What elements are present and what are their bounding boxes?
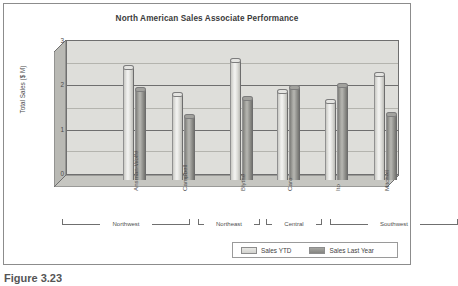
- bars-layer: [54, 40, 399, 187]
- group-bracket-southwest: Southwest: [330, 219, 458, 231]
- bar-cap: [277, 89, 288, 94]
- plot-area: 0 1 2 3 Ansman-WolfeCampbellBlytheCaroIt…: [54, 40, 399, 187]
- figure-frame: North American Sales Associate Performan…: [3, 3, 411, 265]
- group-bracket-northeast: Northeast: [198, 219, 260, 231]
- x-axis-label-ito: Ito: [335, 184, 341, 191]
- bar-cap: [289, 85, 300, 90]
- legend-swatch-sales-last-year: [309, 247, 325, 254]
- x-axis-label-caro: Caro: [287, 178, 293, 191]
- x-axis-label-mitchell: Mitchell: [384, 170, 390, 191]
- bar-cap: [184, 114, 195, 119]
- bar-cap: [325, 99, 336, 104]
- group-brackets: Northwest Northeast Central Southwest: [54, 219, 399, 233]
- bar-mitchell-sales-ytd: [374, 72, 385, 181]
- chart-legend: Sales YTD Sales Last Year: [232, 242, 398, 258]
- legend-label-sales-ytd: Sales YTD: [261, 247, 291, 254]
- legend-item-sales-ytd: Sales YTD: [241, 247, 291, 254]
- legend-swatch-sales-ytd: [241, 247, 257, 254]
- bar-body: [325, 102, 336, 181]
- bar-body: [374, 75, 385, 181]
- group-label-central: Central: [266, 221, 322, 227]
- group-label-northwest: Northwest: [62, 221, 190, 227]
- bar-body: [242, 99, 253, 180]
- bar-cap: [172, 92, 183, 97]
- bar-cap: [230, 58, 241, 63]
- group-label-southwest: Southwest: [330, 221, 458, 227]
- bar-blythe-sales-ytd: [230, 58, 241, 180]
- x-axis-label-campbell: Campbell: [182, 165, 188, 191]
- x-axis-label-blythe: Blythe: [240, 174, 246, 191]
- bar-body: [230, 61, 241, 180]
- bar-body: [289, 88, 300, 180]
- y-axis-title: Total Sales ($ M): [19, 50, 26, 130]
- x-axis-label-ansman-wolfe: Ansman-Wolfe: [133, 151, 139, 191]
- bar-ito-sales-ytd: [325, 99, 336, 181]
- legend-item-sales-last-year: Sales Last Year: [309, 247, 373, 254]
- bar-blythe-sales-last-year: [242, 96, 253, 180]
- bar-body: [337, 86, 348, 181]
- bar-cap: [374, 72, 385, 77]
- figure-caption: Figure 3.23: [4, 272, 62, 286]
- bar-ito-sales-last-year: [337, 83, 348, 181]
- bar-cap: [386, 112, 397, 117]
- group-bracket-central: Central: [266, 219, 322, 231]
- bar-cap: [123, 65, 134, 70]
- group-bracket-northwest: Northwest: [62, 219, 190, 231]
- bar-cap: [337, 83, 348, 88]
- legend-label-sales-last-year: Sales Last Year: [329, 247, 373, 254]
- group-label-northeast: Northeast: [198, 221, 260, 227]
- chart-title: North American Sales Associate Performan…: [4, 14, 410, 23]
- bar-caro-sales-ytd: [277, 89, 288, 181]
- bar-caro-sales-last-year: [289, 85, 300, 180]
- bar-body: [277, 92, 288, 181]
- bar-cap: [242, 96, 253, 101]
- bar-cap: [135, 87, 146, 92]
